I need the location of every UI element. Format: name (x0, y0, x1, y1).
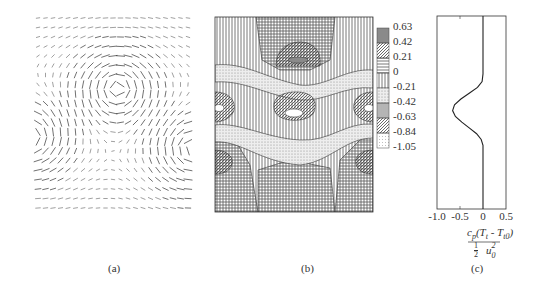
velocity-vector (88, 179, 92, 181)
velocity-vector (128, 149, 129, 153)
velocity-vector (170, 207, 176, 208)
velocity-vector (156, 54, 161, 58)
velocity-vector (177, 129, 184, 135)
velocity-vector (58, 18, 62, 19)
velocity-vector (141, 168, 144, 173)
velocity-vector (102, 111, 109, 116)
velocity-vector (133, 120, 138, 125)
velocity-vector (59, 54, 63, 58)
panel-label-a: (a) (108, 262, 120, 274)
velocity-vector (150, 80, 152, 89)
legend-label: 0.63 (393, 20, 412, 32)
velocity-vector (140, 27, 145, 28)
velocity-vector (119, 179, 123, 181)
velocity-vector (148, 207, 153, 209)
velocity-vector (73, 178, 78, 181)
velocity-vector (170, 119, 176, 125)
velocity-vector (125, 27, 131, 28)
velocity-vector (177, 120, 184, 125)
velocity-vector (90, 149, 91, 154)
x-tick-label: -1.0 (428, 210, 445, 222)
legend-label: 0.21 (393, 50, 412, 62)
velocity-vector (75, 119, 77, 126)
velocity-vector (171, 110, 176, 116)
velocity-vector (179, 55, 183, 58)
legend-swatch (377, 58, 389, 73)
velocity-vector (142, 80, 144, 89)
velocity-vector (104, 90, 107, 98)
velocity-vector (102, 64, 110, 68)
velocity-vector (98, 149, 99, 153)
velocity-vector (177, 188, 185, 190)
velocity-vector (184, 121, 192, 124)
velocity-vector (126, 168, 129, 171)
velocity-vector (111, 179, 115, 180)
velocity-vector (89, 159, 92, 163)
velocity-vector (34, 120, 42, 125)
velocity-vector (111, 170, 115, 171)
velocity-vector (163, 198, 169, 200)
velocity-vector (90, 129, 92, 135)
velocity-vector (150, 148, 151, 155)
velocity-vector (172, 73, 174, 78)
velocity-vector (157, 100, 160, 107)
velocity-vector (81, 178, 85, 180)
velocity-vector (148, 45, 154, 48)
velocity-vector (125, 37, 132, 38)
velocity-vector (126, 130, 131, 133)
velocity-vector (37, 83, 40, 86)
velocity-vector (126, 208, 131, 209)
velocity-vector (66, 27, 71, 28)
velocity-vector (141, 99, 145, 107)
velocity-vector (50, 198, 56, 199)
velocity-vector (187, 73, 189, 77)
velocity-vector (164, 157, 168, 165)
velocity-vector (170, 188, 177, 191)
velocity-vector (148, 197, 153, 199)
velocity-vector (186, 46, 190, 48)
velocity-vector (50, 168, 57, 172)
velocity-vector (126, 80, 129, 88)
velocity-vector (34, 169, 43, 171)
velocity-vector (178, 45, 182, 47)
velocity-vector (155, 207, 160, 209)
velocity-vector (135, 158, 137, 163)
velocity-vector (96, 169, 100, 171)
velocity-vector (51, 101, 55, 107)
velocity-vector (109, 46, 117, 47)
legend-swatch (377, 118, 389, 133)
velocity-vector (156, 119, 160, 126)
velocity-vector (60, 137, 62, 146)
legend-label: -0.84 (393, 125, 416, 137)
velocity-vector (96, 179, 100, 180)
velocity-vector (44, 128, 46, 137)
velocity-vector (156, 110, 160, 117)
velocity-vector (141, 129, 144, 135)
velocity-vector (60, 91, 62, 97)
velocity-vector (81, 71, 85, 78)
velocity-vector (89, 169, 93, 172)
velocity-vector (73, 27, 78, 29)
velocity-vector (34, 159, 43, 162)
velocity-vector (36, 138, 40, 146)
figure-canvas (0, 0, 542, 294)
velocity-vector (66, 158, 70, 163)
velocity-vector (156, 45, 161, 48)
velocity-vector (66, 45, 70, 48)
velocity-vector (94, 54, 101, 58)
velocity-vector (178, 36, 182, 38)
velocity-vector (81, 198, 86, 199)
velocity-vector (67, 109, 69, 116)
velocity-vector (148, 36, 153, 38)
velocity-vector (44, 92, 48, 96)
velocity-vector (126, 90, 130, 98)
velocity-vector (43, 198, 49, 199)
velocity-vector (140, 36, 146, 38)
velocity-vector (68, 81, 69, 87)
velocity-vector (186, 102, 190, 105)
velocity-vector (94, 63, 101, 68)
velocity-vector (96, 100, 101, 108)
velocity-vector (149, 129, 152, 136)
velocity-vector (66, 168, 71, 172)
velocity-vector (134, 80, 136, 89)
